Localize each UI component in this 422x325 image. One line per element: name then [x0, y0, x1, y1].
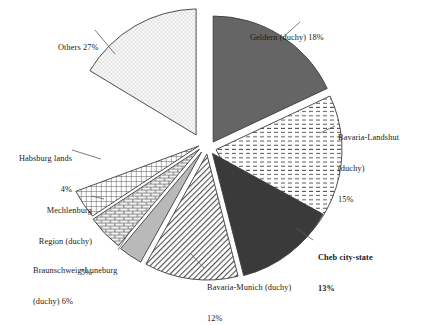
pie-label-cheb-line2: 13% — [318, 284, 373, 294]
pie-label-mechlenburg-line2: Region (duchy) — [8, 237, 92, 247]
leader-line-habsburg — [72, 150, 101, 159]
pie-label-geldern-line1: Geldern (duchy) 18% — [250, 33, 324, 43]
pie-label-cheb-city-state: Cheb city-state 13% — [318, 232, 373, 315]
pie-label-geldern: Geldern (duchy) 18% — [250, 12, 324, 64]
pie-label-bavaria-munich-line1: Bavaria-Munich (duchy) — [207, 283, 291, 293]
pie-label-others-line1: Others 27% — [58, 43, 98, 53]
pie-label-bavaria-munich-line2: 12% — [207, 314, 291, 324]
pie-label-bavaria-landshut-line1: Bavaria-Landshut — [338, 133, 399, 143]
pie-label-bavaria-munich: Bavaria-Munich (duchy) 12% — [207, 262, 291, 325]
pie-label-bavaria-landshut-line3: 15% — [338, 195, 399, 205]
pie-label-others: Others 27% — [58, 22, 98, 74]
pie-label-mechlenburg-line3: 5% — [8, 268, 92, 278]
pie-label-habsburg-lands: Habsburg lands 4% — [2, 133, 72, 216]
pie-label-bavaria-landshut: Bavaria-Landshut (duchy) 15% — [338, 112, 399, 226]
pie-slice-others[interactable] — [90, 9, 196, 135]
pie-label-habsburg-line1: Habsburg lands — [2, 154, 72, 164]
pie-label-habsburg-line2: 4% — [2, 185, 72, 195]
pie-label-bavaria-landshut-line2: (duchy) — [338, 164, 399, 174]
pie-label-cheb-line1: Cheb city-state — [318, 253, 373, 263]
